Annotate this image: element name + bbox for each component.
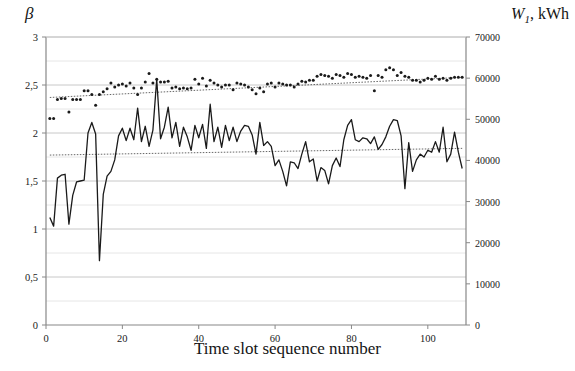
beta-point [289, 84, 292, 87]
beta-point [300, 80, 303, 83]
beta-point [136, 93, 139, 96]
beta-point [312, 79, 315, 82]
y2-tick-label: 70000 [475, 32, 500, 43]
x-tick-label: 20 [117, 333, 128, 344]
beta-point [434, 75, 437, 78]
x-tick-label: 100 [420, 333, 436, 344]
beta-point [308, 79, 311, 82]
beta-point [319, 73, 322, 76]
beta-point [339, 74, 342, 77]
beta-point [52, 117, 55, 120]
beta-point [430, 78, 433, 81]
beta-point [71, 98, 74, 101]
beta-point [60, 97, 63, 100]
beta-point [388, 66, 391, 69]
beta-point [182, 86, 185, 89]
beta-point [201, 77, 204, 80]
beta-point [354, 76, 357, 79]
beta-point [423, 79, 426, 82]
beta-point [178, 87, 181, 90]
beta-point [377, 74, 380, 77]
beta-point [323, 74, 326, 77]
beta-point [350, 73, 353, 76]
beta-point [316, 75, 319, 78]
beta-point [102, 90, 105, 93]
y-tick-label: 2,5 [25, 80, 38, 91]
beta-point [167, 80, 170, 83]
y-tick-label: 2 [33, 128, 38, 139]
beta-point [56, 98, 59, 101]
beta-point [190, 86, 193, 89]
y2-tick-label: 40000 [475, 155, 500, 166]
y-tick-label: 1,5 [25, 176, 38, 187]
beta-point [113, 85, 116, 88]
beta-point [415, 79, 418, 82]
beta-point [384, 68, 387, 71]
beta-point [48, 117, 51, 120]
beta-point [251, 88, 254, 91]
beta-point [277, 82, 280, 85]
beta-point [247, 85, 250, 88]
beta-point [106, 87, 109, 90]
beta-point [220, 85, 223, 88]
beta-point [67, 110, 70, 113]
beta-point [98, 93, 101, 96]
beta-point [239, 83, 242, 86]
beta-point [285, 84, 288, 87]
x-tick-label: 40 [193, 333, 204, 344]
beta-point [274, 85, 277, 88]
beta-point [297, 83, 300, 86]
beta-point [186, 87, 189, 90]
beta-point [327, 75, 330, 78]
beta-point [197, 83, 200, 86]
beta-point [342, 76, 345, 79]
beta-point [148, 72, 151, 75]
beta-point [243, 84, 246, 87]
y2-tick-label: 30000 [475, 197, 500, 208]
beta-point [155, 78, 158, 81]
beta-point [228, 84, 231, 87]
y-tick-label: 1 [33, 224, 38, 235]
beta-point [209, 79, 212, 82]
beta-point [213, 82, 216, 85]
w1-polyline [50, 79, 462, 260]
beta-point [361, 76, 364, 79]
beta-point [445, 79, 448, 82]
beta-point [453, 76, 456, 79]
x-tick-label: 60 [270, 333, 281, 344]
beta-point [232, 88, 235, 91]
beta-point [407, 76, 410, 79]
beta-point [90, 93, 93, 96]
beta-point [419, 81, 422, 84]
y-tick-label: 3 [33, 32, 38, 43]
x-tick-label: 80 [346, 333, 357, 344]
beta-point [335, 73, 338, 76]
beta-point [396, 74, 399, 77]
chart-figure: β W1, kWh Time slot sequence number 00,5… [0, 0, 575, 371]
trendlines-group [50, 77, 462, 155]
beta-point [449, 77, 452, 80]
beta-point [411, 79, 414, 82]
y2-tick-label: 60000 [475, 73, 500, 84]
beta-point [125, 84, 128, 87]
beta-point [83, 89, 86, 92]
beta-point [426, 77, 429, 80]
beta-scatter-series [48, 66, 463, 120]
beta-point [381, 76, 384, 79]
beta-point [117, 84, 120, 87]
y2-tick-label: 50000 [475, 114, 500, 125]
beta-point [159, 81, 162, 84]
beta-point [140, 86, 143, 89]
y2-tick-label: 0 [475, 320, 480, 331]
beta-point [442, 77, 445, 80]
beta-point [457, 76, 460, 79]
beta-point [87, 89, 90, 92]
w1-line-series [50, 79, 462, 260]
y2-tick-label: 10000 [475, 279, 500, 290]
beta-point [109, 82, 112, 85]
y-tick-label: 0 [33, 320, 38, 331]
beta-point [461, 76, 464, 79]
beta-point [331, 77, 334, 80]
beta-point [304, 81, 307, 84]
beta-point [132, 86, 135, 89]
